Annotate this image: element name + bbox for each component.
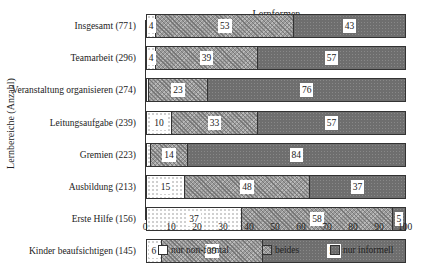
bar-segment: 4	[146, 14, 156, 38]
bar-segment: 76	[208, 78, 406, 102]
bar-row: Ausbildung (213)154837	[146, 175, 406, 199]
x-tick-label: 60	[296, 222, 306, 232]
bar-row: Teamarbeit (296)43957	[146, 46, 406, 70]
value-label: 14	[162, 148, 176, 162]
value-label: 15	[159, 180, 173, 194]
legend-label: nur non-formal	[171, 245, 229, 255]
legend-swatch-icon	[158, 245, 168, 255]
bar-row: Leitungsaufgabe (239)103357	[146, 111, 406, 135]
value-label: 23	[171, 83, 185, 97]
x-tick-label: 50	[270, 222, 280, 232]
bar-segment: 33	[172, 111, 258, 135]
bar-segment: 48	[185, 175, 310, 199]
legend-label: beides	[275, 245, 299, 255]
value-label: 4	[147, 51, 156, 65]
bar-segment: 23	[149, 78, 209, 102]
value-label: 84	[290, 148, 304, 162]
stacked-bar: 45343	[146, 14, 406, 38]
value-label: 53	[218, 19, 232, 33]
bar-segment: 15	[146, 175, 185, 199]
legend-item-non-formal: nur non-formal	[158, 245, 229, 255]
stacked-bar: 154837	[146, 175, 406, 199]
bar-segment: 57	[258, 46, 406, 70]
bar-segment: 37	[310, 175, 406, 199]
legend-label: nur informell	[343, 245, 393, 255]
value-label: 37	[351, 180, 365, 194]
value-label: 6	[149, 244, 158, 258]
x-tick-label: 40	[244, 222, 254, 232]
value-label: 39	[200, 51, 214, 65]
bar-segment: 43	[294, 14, 406, 38]
legend-item-informell: nur informell	[330, 245, 393, 255]
x-tick-label: 20	[192, 222, 202, 232]
stacked-bar: 1484	[146, 143, 406, 167]
category-label: Veranstaltung organisieren (274)	[12, 78, 136, 102]
value-label: 76	[300, 83, 314, 97]
x-tick-label: 0	[143, 222, 148, 232]
value-label: 48	[240, 180, 254, 194]
value-label: 57	[325, 116, 339, 130]
bar-segment: 4	[146, 46, 156, 70]
value-label: 4	[147, 19, 156, 33]
value-label: 10	[152, 116, 166, 130]
value-label: 33	[208, 116, 222, 130]
category-label: Insgesamt (771)	[75, 14, 136, 38]
x-tick-label: 100	[398, 222, 412, 232]
x-axis: 0102030405060708090100	[145, 222, 405, 234]
x-tick-label: 10	[166, 222, 176, 232]
bar-row: Veranstaltung organisieren (274)2376	[146, 78, 406, 102]
legend-swatch-icon	[330, 245, 340, 255]
bar-row: Insgesamt (771)45343	[146, 14, 406, 38]
plot-area: Insgesamt (771)45343Teamarbeit (296)4395…	[145, 20, 406, 220]
category-label: Gremien (223)	[80, 143, 136, 167]
stacked-bar: 2376	[146, 78, 406, 102]
category-label: Erste Hilfe (156)	[72, 207, 136, 231]
x-tick-label: 70	[322, 222, 332, 232]
category-label: Ausbildung (213)	[69, 175, 136, 199]
category-label: Teamarbeit (296)	[70, 46, 136, 70]
legend-item-beides: beides	[262, 245, 299, 255]
bar-row: Gremien (223)1484	[146, 143, 406, 167]
bar-segment: 14	[151, 143, 187, 167]
bar-segment: 84	[188, 143, 406, 167]
x-tick-label: 90	[374, 222, 384, 232]
category-label: Kinder beaufsichtigen (145)	[29, 239, 136, 263]
category-label: Leitungsaufgabe (239)	[50, 111, 136, 135]
stacked-bar: 103357	[146, 111, 406, 135]
legend-swatch-icon	[262, 245, 272, 255]
x-tick-label: 30	[218, 222, 228, 232]
x-tick-label: 80	[348, 222, 358, 232]
stacked-bar: 43957	[146, 46, 406, 70]
value-label: 57	[325, 51, 339, 65]
value-label: 43	[343, 19, 357, 33]
bar-segment: 53	[156, 14, 294, 38]
bar-segment: 39	[156, 46, 257, 70]
bar-segment: 57	[258, 111, 406, 135]
bar-segment: 10	[146, 111, 172, 135]
